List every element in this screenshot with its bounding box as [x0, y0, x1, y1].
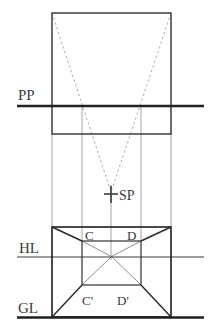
- vp-diagonal-bottom-right: [112, 257, 142, 286]
- perspective-construction-diagram: PP SP HL GL C D C' D': [0, 0, 212, 330]
- perspective-back-wall: [82, 241, 141, 285]
- pp-label: PP: [18, 87, 35, 103]
- sp-label: SP: [119, 188, 135, 203]
- receding-edge-top-left: [52, 227, 82, 241]
- point-c-prime-label: C': [82, 293, 93, 308]
- vp-diagonal-top-left: [82, 241, 112, 257]
- vp-diagonal-top-right: [112, 241, 142, 257]
- vp-diagonal-bottom-left: [82, 257, 112, 286]
- gl-label: GL: [18, 300, 38, 316]
- receding-edge-bottom-left: [52, 285, 82, 317]
- plan-rectangle: [52, 13, 171, 134]
- receding-edge-top-right: [141, 227, 171, 241]
- hl-label: HL: [19, 240, 39, 256]
- diagram-svg: PP SP HL GL C D C' D': [0, 0, 212, 330]
- receding-edge-bottom-right: [141, 285, 171, 317]
- point-d-prime-label: D': [117, 293, 129, 308]
- sightline-left-dashed: [52, 13, 111, 192]
- point-c-label: C: [85, 228, 94, 243]
- point-d-label: D: [127, 228, 136, 243]
